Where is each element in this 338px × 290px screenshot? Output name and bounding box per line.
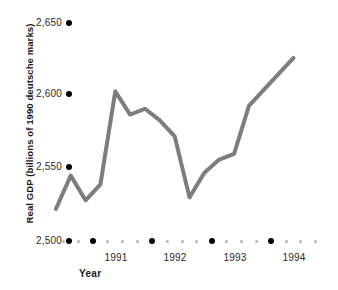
x-tick-label-1992: 1992 bbox=[163, 252, 186, 263]
gdp-line-chart: Real GDP (billions of 1990 deutsche mark… bbox=[0, 0, 338, 290]
x-tick-minor bbox=[121, 240, 124, 243]
plot-area bbox=[0, 0, 338, 290]
x-tick-minor bbox=[166, 240, 169, 243]
x-tick-label-1991: 1991 bbox=[104, 252, 127, 263]
x-tick-minor bbox=[62, 240, 65, 243]
x-tick-minor bbox=[240, 240, 243, 243]
gdp-data-line bbox=[56, 58, 294, 209]
x-tick-minor bbox=[314, 240, 317, 243]
x-tick-label-1993: 1993 bbox=[223, 252, 246, 263]
x-tick-minor bbox=[285, 240, 288, 243]
x-tick-minor bbox=[77, 240, 80, 243]
x-tick-major-1993 bbox=[209, 238, 215, 244]
x-tick-major-1991 bbox=[90, 238, 96, 244]
x-tick-minor bbox=[255, 240, 258, 243]
x-tick-minor bbox=[181, 240, 184, 243]
x-tick-label-1994: 1994 bbox=[282, 252, 305, 263]
x-tick-minor bbox=[225, 240, 228, 243]
x-tick-minor bbox=[136, 240, 139, 243]
x-axis-title: Year bbox=[79, 268, 101, 279]
